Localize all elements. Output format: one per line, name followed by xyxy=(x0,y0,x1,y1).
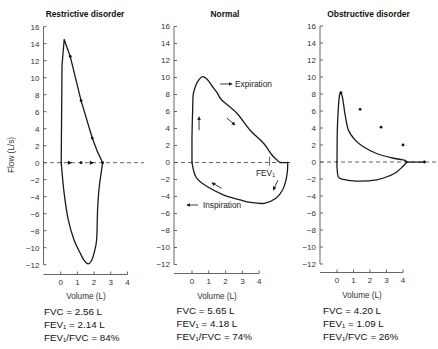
y-tick-label: 14 xyxy=(31,40,40,49)
x-tick-label: 1 xyxy=(75,278,80,287)
y-tick-label: 14 xyxy=(307,39,316,48)
data-point-dot xyxy=(340,91,343,94)
stat-fev1-fvc-ratio: FEV₁/FVC = 74% xyxy=(177,331,253,342)
data-point-dot xyxy=(69,55,72,58)
y-tick-label: 10 xyxy=(307,73,316,82)
x-axis-label: Volume (L) xyxy=(342,291,382,300)
plot-area: 1614121086420−2−4−6−8−10−1201234 xyxy=(302,22,438,285)
stat-fvc: FVC = 2.56 L xyxy=(44,306,103,317)
y-tick-label: 4 xyxy=(35,125,40,134)
y-tick-label: 12 xyxy=(161,56,170,65)
stat-fvc: FVC = 5.65 L xyxy=(177,305,236,316)
y-tick-label: 0 xyxy=(166,158,171,167)
data-point-dot xyxy=(423,161,426,164)
y-tick-label: 8 xyxy=(35,91,40,100)
y-tick-label: 10 xyxy=(31,74,40,83)
data-point-dot xyxy=(402,144,405,147)
y-tick-label: 6 xyxy=(35,108,40,117)
panel-restrictive: Restrictive disorder 1614121086420−2−4−6… xyxy=(26,9,144,343)
stat-fev1-fvc-ratio: FEV₁/FVC = 84% xyxy=(44,332,120,343)
data-point-dot xyxy=(380,126,383,129)
x-tick-label: 1 xyxy=(207,277,212,286)
y-tick-label: −2 xyxy=(161,175,171,184)
annotation-label: Expiration xyxy=(235,79,272,89)
y-tick-label: −12 xyxy=(156,260,170,269)
y-tick-label: 16 xyxy=(161,22,170,31)
y-axis-label: Flow (L/s) xyxy=(7,137,16,173)
y-tick-label: −8 xyxy=(30,227,40,236)
data-point-dot xyxy=(80,161,83,164)
x-tick-label: 2 xyxy=(223,277,228,286)
y-tick-label: 12 xyxy=(307,56,316,65)
x-tick-label: 3 xyxy=(384,276,389,285)
y-tick-label: 6 xyxy=(312,107,317,116)
data-point-dot xyxy=(359,108,362,111)
x-tick-label: 1 xyxy=(351,276,356,285)
y-tick-label: 0 xyxy=(312,158,317,167)
arrow-right-icon xyxy=(68,161,72,165)
panel-title: Normal xyxy=(211,9,240,19)
plot-area: 1614121086420−2−4−6−8−10−1201234 xyxy=(26,23,144,288)
y-tick-label: 16 xyxy=(307,22,316,31)
flow-direction-arrow-icon xyxy=(227,118,235,125)
x-tick-label: 0 xyxy=(190,277,195,286)
arrow-right-icon xyxy=(90,161,94,165)
y-tick-label: 16 xyxy=(31,23,40,32)
y-tick-label: −4 xyxy=(307,192,317,201)
y-tick-label: 4 xyxy=(166,124,171,133)
y-tick-label: 4 xyxy=(312,124,317,133)
flow-direction-arrow-icon xyxy=(212,183,222,188)
annotation-label: FEV₁ xyxy=(256,168,275,178)
y-tick-label: −6 xyxy=(307,209,317,218)
y-tick-label: −2 xyxy=(30,176,40,185)
y-tick-label: 8 xyxy=(312,90,317,99)
data-point-dot xyxy=(101,161,104,164)
x-tick-label: 4 xyxy=(401,276,406,285)
plot-area: 1614121086420−2−4−6−8−10−1201234Expirati… xyxy=(156,22,291,286)
data-point-dot xyxy=(80,99,83,102)
panel-title: Obstructive disorder xyxy=(327,9,410,19)
stat-fev1: FEV₁ = 2.14 L xyxy=(44,319,105,330)
y-tick-label: −6 xyxy=(30,210,40,219)
panel-obstructive: Obstructive disorder 1614121086420−2−4−6… xyxy=(302,9,438,342)
x-tick-label: 4 xyxy=(257,277,262,286)
figure-canvas: Flow (L/s) Restrictive disorder 16141210… xyxy=(0,0,438,349)
y-tick-label: 2 xyxy=(312,141,317,150)
x-tick-label: 0 xyxy=(58,278,63,287)
y-tick-label: 2 xyxy=(35,142,40,151)
stat-fev1-fvc-ratio: FEV₁/FVC = 26% xyxy=(323,331,399,342)
panel-title: Restrictive disorder xyxy=(46,9,125,19)
y-tick-label: −2 xyxy=(307,175,317,184)
data-point-dot xyxy=(91,137,94,140)
stat-fev1: FEV₁ = 1.09 L xyxy=(323,318,384,329)
inspiration-curve xyxy=(337,162,407,181)
y-tick-label: −4 xyxy=(161,192,171,201)
stat-fvc: FVC = 4.20 L xyxy=(323,305,382,316)
y-tick-label: −10 xyxy=(302,243,316,252)
y-tick-label: −12 xyxy=(302,260,316,269)
y-tick-label: −6 xyxy=(161,209,171,218)
x-tick-label: 2 xyxy=(92,278,97,287)
x-tick-label: 3 xyxy=(240,277,245,286)
y-tick-label: −8 xyxy=(161,226,171,235)
y-tick-label: −8 xyxy=(307,226,317,235)
y-tick-label: 2 xyxy=(166,141,171,150)
x-tick-label: 2 xyxy=(368,276,373,285)
expiration-curve xyxy=(192,77,288,163)
x-tick-label: 0 xyxy=(335,276,340,285)
annotation-label: Inspiration xyxy=(203,200,242,210)
stat-fev1: FEV₁ = 4.18 L xyxy=(177,318,238,329)
y-tick-label: 14 xyxy=(161,39,170,48)
y-tick-label: 6 xyxy=(166,107,171,116)
y-tick-label: 12 xyxy=(31,57,40,66)
x-tick-label: 3 xyxy=(109,278,114,287)
x-axis-label: Volume (L) xyxy=(197,292,237,301)
y-tick-label: 8 xyxy=(166,90,171,99)
x-axis-label: Volume (L) xyxy=(66,292,106,301)
y-tick-label: −10 xyxy=(26,244,40,253)
y-tick-label: −12 xyxy=(26,261,40,270)
flow-direction-arrow-icon xyxy=(273,180,278,190)
panel-normal: Normal 1614121086420−2−4−6−8−10−1201234E… xyxy=(156,9,291,342)
y-tick-label: −10 xyxy=(156,243,170,252)
inspiration-curve xyxy=(61,163,102,264)
